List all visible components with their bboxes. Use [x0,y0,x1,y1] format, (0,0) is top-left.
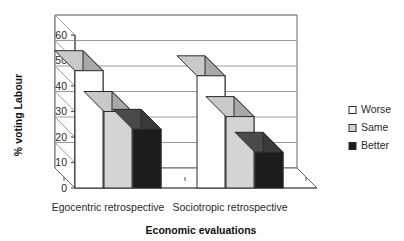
category-label-1: Egocentric retrospective [52,201,165,213]
legend-item-better[interactable]: Better [349,139,390,151]
legend-label: Better [361,139,390,151]
x-axis-title: Economic evaluations [146,224,257,236]
y-tick-label: 10 [55,156,67,168]
category-label-2: Sociotropic retrospective [173,201,288,213]
legend-label: Same [361,121,389,133]
legend-item-worse[interactable]: Worse [349,103,391,115]
y-tick-label: 0 [61,182,67,194]
legend-item-same[interactable]: Same [349,121,389,133]
y-axis-title: % voting Labour [12,74,24,156]
legend-label: Worse [361,103,391,115]
y-tick-label: 30 [55,105,67,117]
y-tick-label: 60 [55,29,67,41]
y-tick-label: 40 [55,80,67,92]
category-labels: Egocentric retrospectiveSociotropic retr… [52,201,288,213]
chart-container: 0102030405060 Egocentric retrospectiveSo… [0,0,404,241]
y-tick-label: 20 [55,131,67,143]
bar-chart: 0102030405060 Egocentric retrospectiveSo… [0,0,404,241]
chart-legend[interactable]: WorseSameBetter [349,103,391,151]
